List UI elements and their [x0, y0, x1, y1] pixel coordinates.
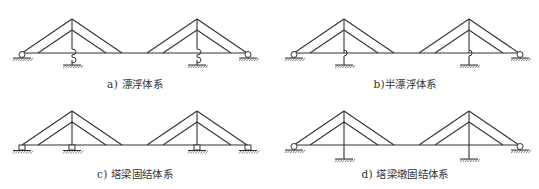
tower-1-outer-cable-right	[344, 111, 394, 145]
tower-2-inner-cable-left	[163, 122, 197, 145]
tower-1-outer-cable-left	[294, 111, 344, 145]
left-end-roller	[19, 52, 25, 58]
left-end-bearing	[19, 145, 25, 150]
tower-2-outer-cable-right	[469, 111, 519, 145]
tower-2-inner-cable-left	[435, 30, 469, 53]
caption-d: d) 塔梁墩固结体系	[270, 166, 539, 181]
tower-2-inner-cable-right	[197, 30, 231, 53]
tower-2-inner-cable-left	[163, 30, 197, 53]
tower-2-outer-cable-left	[147, 19, 197, 53]
tower-2-support-bearing	[194, 145, 200, 150]
left-end-roller	[291, 144, 297, 150]
panel-semi-floating-system: b)半漂浮体系	[270, 0, 539, 94]
caption-c: c) 塔梁固结体系	[0, 166, 270, 181]
tower-1-inner-cable-right	[72, 30, 106, 53]
right-end-roller	[245, 52, 251, 58]
tower-2-outer-cable-right	[469, 19, 519, 53]
tower-1-outer-cable-left	[22, 19, 72, 53]
tower-1-outer-cable-left	[294, 19, 344, 53]
tower-2-outer-cable-right	[197, 111, 247, 145]
tower-1-outer-cable-right	[72, 19, 122, 53]
tower-1-inner-cable-left	[310, 30, 344, 53]
tower-2-outer-cable-left	[147, 111, 197, 145]
tower-2-outer-cable-left	[419, 19, 469, 53]
tower-1-support-bearing	[69, 145, 75, 150]
caption-a: a) 漂浮体系	[0, 76, 270, 91]
tower-2-outer-cable-right	[197, 19, 247, 53]
tower-1-inner-cable-left	[38, 122, 72, 145]
tower-2-inner-cable-right	[469, 122, 503, 145]
tower-2-outer-cable-left	[419, 111, 469, 145]
left-end-roller	[291, 52, 297, 58]
tower-2-gap-symbol	[197, 49, 201, 63]
right-end-roller	[517, 144, 523, 150]
tower-1-outer-cable-right	[344, 19, 394, 53]
tower-2-inner-cable-right	[197, 122, 231, 145]
tower-2-inner-cable-right	[469, 30, 503, 53]
tower-1-outer-cable-right	[72, 111, 122, 145]
tower-1-inner-cable-right	[344, 122, 378, 145]
tower-1-inner-cable-left	[310, 122, 344, 145]
tower-1-inner-cable-right	[344, 30, 378, 53]
right-end-bearing	[245, 145, 251, 150]
tower-1-outer-cable-left	[22, 111, 72, 145]
tower-2-inner-cable-left	[435, 122, 469, 145]
tower-1-inner-cable-right	[72, 122, 106, 145]
right-end-roller	[517, 52, 523, 58]
panel-tower-girder-pier-consolidated: d) 塔梁墩固结体系	[270, 95, 539, 189]
caption-b: b)半漂浮体系	[270, 76, 539, 91]
tower-1-inner-cable-left	[38, 30, 72, 53]
tower-1-gap-symbol	[72, 49, 76, 63]
panel-tower-girder-consolidated: c) 塔梁固结体系	[0, 95, 270, 189]
panel-floating-system: a) 漂浮体系	[0, 0, 270, 94]
